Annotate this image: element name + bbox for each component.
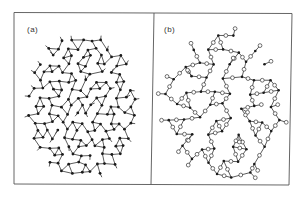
- network-a: [25, 36, 140, 178]
- frame: [14, 13, 292, 186]
- panel-label-b: (b): [164, 25, 175, 34]
- figure: (a) (b): [0, 0, 304, 198]
- panel-label-a: (a): [27, 25, 38, 34]
- network-b: [156, 27, 288, 180]
- figure-canvas: [0, 0, 304, 198]
